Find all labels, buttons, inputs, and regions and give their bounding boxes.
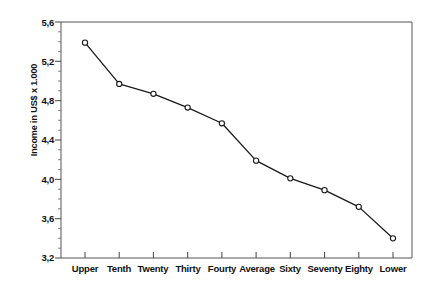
data-point-average [254, 158, 259, 163]
data-point-fourty [219, 121, 224, 126]
x-tick-label: Seventy [307, 263, 342, 274]
data-point-eighty [356, 204, 361, 209]
income-decile-line-chart: Income in US$ x 1.000 5,6 5,2 4,8 4,4 4,… [0, 0, 446, 291]
data-point-markers [82, 40, 395, 241]
x-axis-ticks [85, 252, 393, 258]
data-point-thirty [185, 105, 190, 110]
x-tick-label: Upper [72, 263, 98, 274]
plot-canvas [0, 0, 446, 291]
x-tick-label: Tenth [107, 263, 131, 274]
data-point-tenth [117, 81, 122, 86]
data-point-lower [390, 236, 395, 241]
x-tick-label: Twenty [138, 263, 169, 274]
data-point-sixty [288, 176, 293, 181]
income-line-series [85, 43, 393, 239]
x-tick-label: Average [239, 263, 275, 274]
x-tick-label: Fourty [208, 263, 236, 274]
x-tick-label: Eighty [345, 263, 373, 274]
data-point-twenty [151, 91, 156, 96]
data-point-seventy [322, 188, 327, 193]
data-point-upper [82, 40, 87, 45]
x-tick-label: Lower [380, 263, 407, 274]
x-tick-label: Thirty [175, 263, 200, 274]
y-axis-major-ticks [55, 22, 61, 258]
x-tick-label: Sixty [279, 263, 301, 274]
